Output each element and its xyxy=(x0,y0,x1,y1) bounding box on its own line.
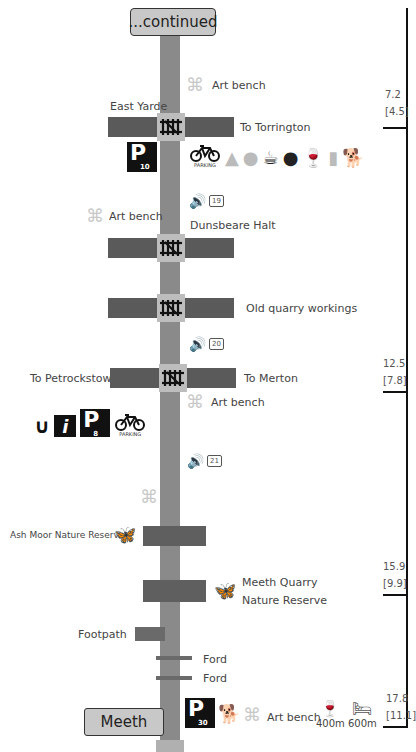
butterfly-icon: 🦋 xyxy=(114,524,136,545)
audio-point-19[interactable]: 🔊 19 xyxy=(189,193,224,209)
amenities-petrockstowe: ∪ i P 8 PARKING xyxy=(34,409,146,437)
footpath-branch xyxy=(135,627,165,641)
footpath-label: Footpath xyxy=(78,628,127,641)
ford-label: Ford xyxy=(203,672,227,685)
audio-point-20[interactable]: 🔊 20 xyxy=(189,336,224,352)
camping-icon: ▲ xyxy=(225,148,239,168)
distance-marker-1: 7.2 [4.5] xyxy=(385,86,409,120)
distance-miles: [4.5] xyxy=(385,103,409,120)
audio-icon: 🔊 xyxy=(189,193,206,209)
meeth-quarry-label-line2: Nature Reserve xyxy=(242,594,327,607)
bed-distance-label: 600m xyxy=(348,718,377,729)
level-crossing-icon xyxy=(157,113,185,141)
parking-p: P xyxy=(130,142,146,164)
distance-tick xyxy=(383,594,408,596)
level-crossing-icon xyxy=(157,234,185,262)
trail-line xyxy=(160,34,180,752)
distance-km: 17.8 xyxy=(386,690,416,707)
ford-marker xyxy=(156,676,192,680)
ford-label: Ford xyxy=(203,653,227,666)
beer-glass-icon: ▮ xyxy=(328,148,338,168)
continued-label: ...continued xyxy=(130,8,216,36)
meeth-quarry-label-line1: Meeth Quarry xyxy=(242,576,318,589)
cafe-icon: ☕ xyxy=(263,148,279,168)
trail-continuation xyxy=(156,740,184,752)
art-bench-label: Art bench xyxy=(212,79,266,92)
dunsbeare-halt-label: Dunsbeare Halt xyxy=(190,219,276,232)
meeth-text: Meeth xyxy=(101,713,148,731)
audio-number: 21 xyxy=(207,455,222,467)
parking-icon: P 8 xyxy=(80,409,110,437)
amenities-east-yarde: PARKING ▲ ● ☕ ● 🍷 ▮ 🐕 xyxy=(189,144,364,168)
to-torrington-label: To Torrington xyxy=(240,121,311,134)
parking-number: 30 xyxy=(198,720,208,727)
distance-marker-4: 17.8 [11.1] xyxy=(386,690,416,724)
info-icon: i xyxy=(54,415,76,437)
pub-distance-label: 400m xyxy=(316,718,345,729)
to-merton-label: To Merton xyxy=(244,372,298,385)
meeth-station-label: Meeth xyxy=(84,708,164,736)
distance-tick xyxy=(383,391,408,393)
parking-icon: P 30 xyxy=(185,698,215,728)
accommodation-distance: 🛏 600m xyxy=(348,700,377,729)
distance-miles: [7.8] xyxy=(383,372,407,389)
nature-reserve-block-meeth-quarry xyxy=(143,580,206,602)
art-bench-label: Art bench xyxy=(267,711,321,724)
parking-number: 10 xyxy=(140,164,150,171)
art-bench-icon: ⌘ xyxy=(186,76,204,94)
distance-marker-2: 12.5 [7.8] xyxy=(383,355,407,389)
art-bench-label: Art bench xyxy=(109,210,163,223)
audio-point-21[interactable]: 🔊 21 xyxy=(187,453,222,469)
ash-moor-label: Ash Moor Nature Reserve xyxy=(10,530,124,540)
art-bench-icon: ⌘ xyxy=(186,393,204,411)
level-crossing-icon xyxy=(157,294,185,322)
caravan-icon: ● xyxy=(243,148,259,168)
distance-tick xyxy=(383,127,408,129)
pub-icon: 🍷 xyxy=(320,700,340,718)
bicycle-parking-icon: PARKING xyxy=(114,413,146,437)
east-yarde-label: East Yarde xyxy=(110,100,167,113)
bed-icon: 🛏 xyxy=(352,700,372,718)
butterfly-icon: 🦋 xyxy=(214,580,236,601)
wine-glass-icon: 🍷 xyxy=(302,148,324,168)
old-quarry-label: Old quarry workings xyxy=(246,302,357,315)
art-bench-icon: ⌘ xyxy=(243,706,261,724)
continued-text: ...continued xyxy=(128,13,217,31)
distance-km: 15.9 xyxy=(383,558,407,575)
distance-marker-3: 15.9 [9.9] xyxy=(383,558,407,592)
bike-parking-label: PARKING xyxy=(119,431,141,437)
dog-icon: 🐕 xyxy=(342,148,364,168)
audio-number: 20 xyxy=(209,338,224,350)
distance-miles: [9.9] xyxy=(383,575,407,592)
art-bench-label: Art bench xyxy=(211,396,265,409)
horseshoe-icon: ∪ xyxy=(34,415,50,437)
art-bench-icon: ⌘ xyxy=(86,207,104,225)
bike-parking-label: PARKING xyxy=(194,162,216,168)
bicycle-parking-icon: PARKING xyxy=(189,144,221,168)
parking-icon: P 10 xyxy=(127,142,157,172)
to-petrockstowe-label: To Petrockstowe xyxy=(30,372,118,385)
nature-reserve-block-ash-moor xyxy=(143,526,206,546)
audio-icon: 🔊 xyxy=(189,336,206,352)
audio-icon: 🔊 xyxy=(187,453,204,469)
parking-p: P xyxy=(188,698,204,720)
ford-marker xyxy=(156,656,192,660)
distance-tick xyxy=(383,726,408,728)
pub-distance: 🍷 400m xyxy=(316,700,345,729)
audio-number: 19 xyxy=(209,195,224,207)
art-bench-icon: ⌘ xyxy=(140,488,158,506)
level-crossing-icon xyxy=(159,364,187,392)
restaurant-icon: ● xyxy=(283,148,299,168)
dog-icon: 🐕 xyxy=(218,703,240,724)
distance-km: 12.5 xyxy=(383,355,407,372)
parking-number: 8 xyxy=(93,431,98,438)
parking-p: P xyxy=(83,409,99,431)
distance-km: 7.2 xyxy=(385,86,409,103)
distance-miles: [11.1] xyxy=(386,707,416,724)
